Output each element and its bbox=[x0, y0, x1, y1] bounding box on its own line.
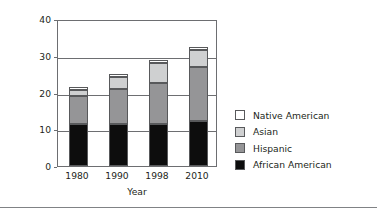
y-tick-label: 10 bbox=[27, 124, 51, 135]
chart-legend: Native AmericanAsianHispanicAfrican Amer… bbox=[235, 107, 332, 173]
plot-area bbox=[57, 20, 217, 167]
y-tick-label: 0 bbox=[27, 161, 51, 172]
legend-label: Hispanic bbox=[253, 143, 292, 154]
y-tick-label: 20 bbox=[27, 88, 51, 99]
bar-1998 bbox=[149, 19, 168, 166]
x-axis-title: Year bbox=[97, 186, 177, 197]
y-tick-mark bbox=[54, 167, 57, 168]
legend-swatch bbox=[235, 143, 245, 153]
legend-swatch bbox=[235, 160, 245, 170]
bar-segment-asian bbox=[69, 90, 88, 96]
bar-segment-hispanic bbox=[149, 83, 168, 124]
legend-swatch bbox=[235, 110, 245, 120]
legend-item: Hispanic bbox=[235, 140, 332, 157]
x-tick-label: 2010 bbox=[177, 170, 217, 181]
bar-segment-asian bbox=[109, 77, 128, 89]
bar-2010 bbox=[189, 19, 208, 166]
x-tick-label: 1980 bbox=[57, 170, 97, 181]
bar-segment-asian bbox=[189, 50, 208, 67]
bar-segment-hispanic bbox=[109, 89, 128, 125]
y-tick-label: 40 bbox=[27, 14, 51, 25]
bar-segment-native-american bbox=[189, 47, 208, 50]
bar-segment-african-american bbox=[109, 124, 128, 166]
legend-swatch bbox=[235, 127, 245, 137]
bar-segment-asian bbox=[149, 63, 168, 84]
legend-item: Asian bbox=[235, 124, 332, 141]
legend-label: Native American bbox=[253, 110, 329, 121]
bar-segment-african-american bbox=[189, 121, 208, 166]
bar-segment-african-american bbox=[149, 124, 168, 166]
bar-segment-hispanic bbox=[69, 96, 88, 124]
bar-segment-hispanic bbox=[189, 67, 208, 121]
stacked-bar-chart-figure: Percent of U.S. Population 010203040 198… bbox=[0, 0, 377, 214]
bar-1980 bbox=[69, 19, 88, 166]
x-tick-label: 1990 bbox=[97, 170, 137, 181]
bar-segment-african-american bbox=[69, 124, 88, 166]
bottom-divider bbox=[0, 207, 377, 208]
legend-item: African American bbox=[235, 157, 332, 174]
bar-segment-native-american bbox=[149, 60, 168, 63]
bar-1990 bbox=[109, 19, 128, 166]
legend-label: African American bbox=[253, 159, 332, 170]
bar-segment-native-american bbox=[69, 87, 88, 90]
x-tick-label: 1998 bbox=[137, 170, 177, 181]
legend-item: Native American bbox=[235, 107, 332, 124]
bar-segment-native-american bbox=[109, 74, 128, 77]
y-tick-label: 30 bbox=[27, 51, 51, 62]
legend-label: Asian bbox=[253, 126, 278, 137]
